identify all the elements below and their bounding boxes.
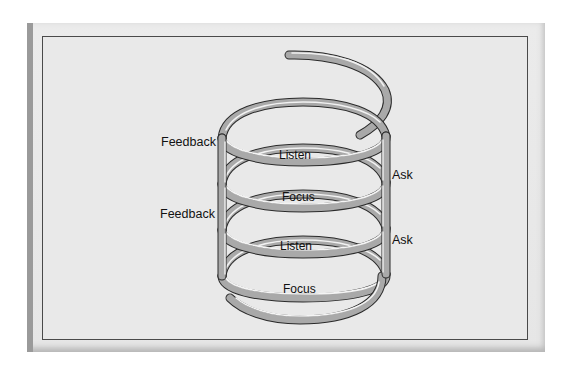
label-ask-2: Ask xyxy=(392,234,413,247)
label-feedback-2: Feedback xyxy=(160,208,215,221)
label-ask-1: Ask xyxy=(392,169,413,182)
label-feedback-1: Feedback xyxy=(161,136,216,149)
label-focus-2: Focus xyxy=(283,283,316,295)
label-listen-2: Listen xyxy=(280,240,312,252)
label-focus-1: Focus xyxy=(282,191,315,203)
spiral-coil-diagram xyxy=(0,0,571,367)
label-listen-1: Listen xyxy=(279,149,311,161)
